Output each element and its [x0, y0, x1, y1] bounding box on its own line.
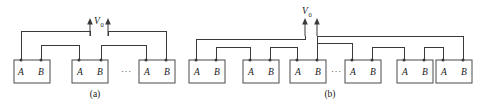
- cell-terminal-label-a: A: [76, 67, 83, 77]
- panel-b-cell-2: A B: [243, 59, 279, 84]
- cell-terminal-label-b: B: [214, 67, 220, 77]
- panel-a-wiring: [21, 31, 166, 60]
- v0-label-subscript: 0: [101, 21, 104, 28]
- panel-a-ellipsis: ···: [121, 66, 132, 76]
- cell-terminal-label-b: B: [422, 67, 428, 77]
- terminal-dot-a: [296, 59, 299, 62]
- terminal-dot-a: [351, 59, 354, 62]
- panel-b-cell-5: A B: [397, 59, 433, 84]
- terminal-dot-b: [40, 59, 43, 62]
- panel-b-v0-label: V 0: [302, 6, 312, 18]
- terminal-dot-a: [442, 59, 445, 62]
- panel-a-caption: (a): [90, 89, 101, 100]
- cell-terminal-label-a: A: [143, 67, 150, 77]
- panel-b-ellipsis: ···: [331, 66, 342, 76]
- wire-cell5-b-to-cell6-a: [424, 47, 443, 60]
- terminal-dot-b: [165, 59, 168, 62]
- cell-terminal-label-a: A: [247, 67, 254, 77]
- cell-terminal-label-b: B: [461, 67, 467, 77]
- cell-terminal-label-a: A: [17, 67, 24, 77]
- terminal-dot-b: [215, 59, 218, 62]
- v0-left-arrow-head: [87, 18, 93, 25]
- terminal-dot-b: [269, 59, 272, 62]
- circuit-figure: V 0 A B A B ···: [0, 0, 478, 106]
- cell-terminal-label-a: A: [294, 67, 301, 77]
- terminal-dot-b: [100, 59, 103, 62]
- panel-b-cell-1: A B: [189, 59, 225, 84]
- terminal-dot-b: [462, 59, 465, 62]
- cell-terminal-label-b: B: [97, 67, 103, 77]
- terminal-dot-a: [403, 59, 406, 62]
- wire-v0-right-bus-to-cell6-b: [317, 37, 463, 61]
- terminal-dot-b: [423, 59, 426, 62]
- terminal-dot-a: [145, 59, 148, 62]
- panel-a-cell-1: A B: [14, 59, 50, 84]
- terminal-dot-a: [20, 59, 23, 62]
- cell-terminal-label-b: B: [370, 67, 376, 77]
- wire-cell2-b-to-cell3-a: [101, 45, 146, 60]
- wire-cell2-b-to-cell3-a: [270, 47, 297, 60]
- panel-a: V 0 A B A B ···: [14, 16, 175, 100]
- panel-b-cell-4: A B: [345, 59, 381, 84]
- wire-cell4-b-to-cell5-a: [372, 47, 404, 60]
- v0-right-arrow-head: [314, 18, 320, 25]
- v0-left-arrow-head: [302, 18, 308, 25]
- wire-cell1-b-to-cell2-a: [216, 47, 250, 60]
- panel-b-caption: (b): [324, 89, 335, 100]
- terminal-dot-a: [78, 59, 81, 62]
- panel-b-cell-6: A B: [436, 59, 472, 84]
- v0-right-arrow-head: [105, 18, 111, 25]
- panel-a-v0-label: V 0: [94, 16, 104, 28]
- cell-terminal-label-b: B: [38, 67, 44, 77]
- cell-terminal-label-a: A: [440, 67, 447, 77]
- cell-terminal-label-b: B: [268, 67, 274, 77]
- terminal-dot-a: [195, 59, 198, 62]
- cell-terminal-label-a: A: [349, 67, 356, 77]
- panel-b-cell-3: A B: [290, 59, 326, 84]
- cell-terminal-label-a: A: [193, 67, 200, 77]
- cell-terminal-label-b: B: [164, 67, 170, 77]
- terminal-dot-b: [371, 59, 374, 62]
- panel-b-wiring: [196, 36, 463, 60]
- cell-terminal-label-a: A: [401, 67, 408, 77]
- panel-b: V 0 A B A B: [189, 6, 472, 100]
- terminal-dot-b: [316, 59, 319, 62]
- cell-terminal-label-b: B: [315, 67, 321, 77]
- panel-a-cell-3: A B: [139, 59, 175, 84]
- wire-cell3-b-to-cell4-a: [317, 44, 352, 61]
- terminal-dot-a: [249, 59, 252, 62]
- v0-label-subscript: 0: [309, 11, 312, 18]
- panel-b-v0-arrows: [302, 18, 320, 36]
- circuit-diagram-svg: V 0 A B A B ···: [0, 0, 478, 106]
- panel-a-cell-2: A B: [72, 59, 108, 84]
- wire-cell1-b-to-cell2-a: [41, 45, 79, 60]
